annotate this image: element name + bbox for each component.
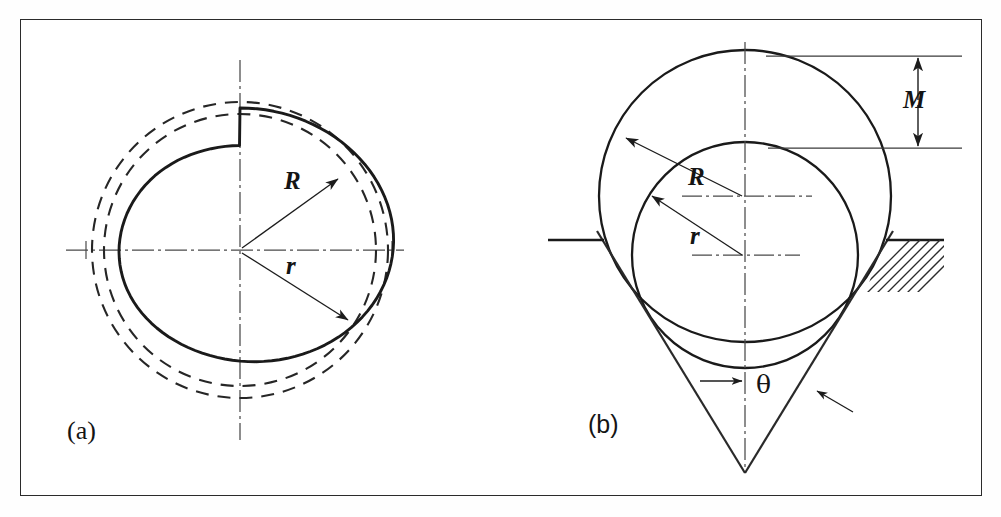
panel-b-label-M: M [903, 86, 925, 114]
figure-canvas: R r (a) R r M θ (b) [0, 0, 1001, 517]
panel-b-R-leader-arrow [626, 138, 742, 196]
panel-a-drawing [0, 0, 1001, 517]
panel-a-trilobe-profile [119, 108, 394, 362]
panel-b-hatch-block-left [520, 240, 650, 300]
panel-a-tag: (a) [67, 416, 96, 446]
panel-b-label-r: r [690, 222, 700, 250]
panel-a-label-R: R [284, 167, 301, 195]
panel-b-hatch-mask [548, 241, 598, 265]
panel-b-label-R: R [688, 163, 705, 191]
panel-b-theta-arrows [700, 381, 853, 412]
panel-b-M-extension-lines [766, 56, 962, 148]
panel-b-label-theta: θ [756, 370, 771, 399]
panel-a-label-r: r [286, 252, 296, 280]
panel-b-tag: (b) [588, 410, 619, 439]
